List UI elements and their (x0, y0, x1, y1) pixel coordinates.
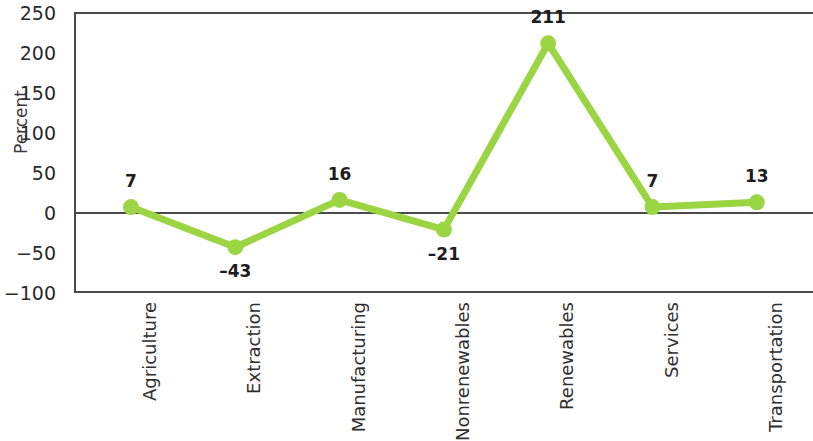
y-tick-label-50: 50 (0, 164, 56, 183)
y-tick-label-200: 200 (0, 44, 56, 63)
data-label-nonrenewables: –21 (428, 246, 460, 263)
x-tick-label-nonrenewables: Nonrenewables (453, 302, 473, 441)
data-label-transportation: 13 (745, 168, 769, 185)
data-label-services: 7 (647, 173, 659, 190)
zero-baseline (74, 212, 813, 214)
x-tick-label-renewables: Renewables (557, 302, 577, 410)
data-label-extraction: –43 (219, 263, 251, 280)
y-tick-label-neg50: −50 (0, 244, 56, 263)
y-tick-label-250: 250 (0, 4, 56, 23)
x-tick-label-services: Services (662, 302, 682, 378)
x-tick-label-extraction: Extraction (244, 302, 264, 394)
y-tick-label-150: 150 (0, 84, 56, 103)
y-tick-label-neg100: −100 (0, 284, 56, 303)
x-tick-label-transportation: Transportation (766, 302, 786, 432)
x-tick-label-manufacturing: Manufacturing (349, 302, 369, 432)
data-label-renewables: 211 (530, 9, 566, 26)
y-tick-label-0: 0 (0, 204, 56, 223)
data-label-manufacturing: 16 (328, 166, 352, 183)
data-label-agriculture: 7 (125, 173, 137, 190)
y-tick-label-100: 100 (0, 124, 56, 143)
x-tick-label-agriculture: Agriculture (140, 302, 160, 401)
